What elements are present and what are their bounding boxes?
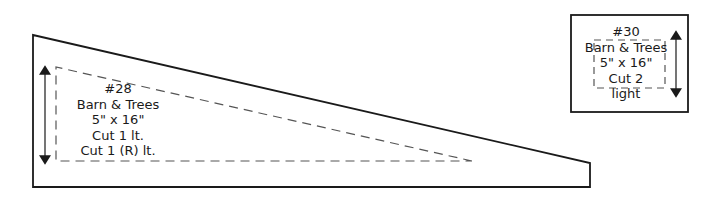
piece-28-number: #28 [58, 81, 178, 97]
piece-28-label: #28 Barn & Trees 5" x 16" Cut 1 lt. Cut … [58, 81, 178, 159]
piece-30-label: #30 Barn & Trees 5" x 16" Cut 2 light [573, 24, 679, 102]
piece-30-size: 5" x 16" [573, 55, 679, 71]
piece-30-fabric: light [573, 86, 679, 102]
piece-30-number: #30 [573, 24, 679, 40]
piece-30-name: Barn & Trees [573, 40, 679, 56]
piece-28-name: Barn & Trees [58, 97, 178, 113]
piece-28-size: 5" x 16" [58, 112, 178, 128]
piece-28-cut-2: Cut 1 (R) lt. [58, 143, 178, 159]
piece-30-cut: Cut 2 [573, 71, 679, 87]
piece-28-cut-1: Cut 1 lt. [58, 128, 178, 144]
